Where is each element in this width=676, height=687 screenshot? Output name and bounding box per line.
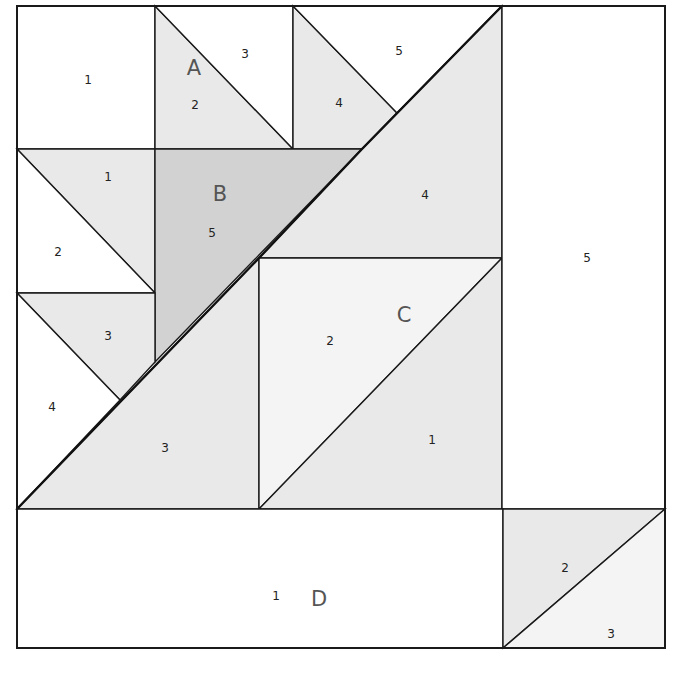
piece-number-label: 3 bbox=[104, 329, 112, 343]
piece-number-label: 2 bbox=[191, 98, 199, 112]
section-label-c: C bbox=[397, 303, 412, 327]
piece-number-label: 3 bbox=[161, 441, 169, 455]
piece-number-label: 5 bbox=[208, 226, 216, 240]
section-label-b: B bbox=[213, 182, 227, 206]
piece-number-label: 3 bbox=[607, 627, 615, 641]
piece-number-label: 2 bbox=[54, 245, 62, 259]
piece-number-label: 1 bbox=[428, 433, 436, 447]
quilt-piece-d-1 bbox=[17, 509, 503, 648]
piece-number-label: 3 bbox=[241, 47, 249, 61]
piece-number-label: 4 bbox=[48, 400, 56, 414]
piece-number-label: 5 bbox=[583, 251, 591, 265]
piece-number-label: 1 bbox=[272, 589, 280, 603]
section-label-a: A bbox=[187, 56, 202, 80]
piece-number-label: 2 bbox=[561, 561, 569, 575]
piece-number-label: 4 bbox=[335, 96, 343, 110]
piece-number-label: 2 bbox=[326, 334, 334, 348]
piece-number-label: 4 bbox=[421, 188, 429, 202]
piece-number-label: 1 bbox=[104, 170, 112, 184]
section-label-d: D bbox=[311, 587, 327, 611]
quilt-block-diagram: 123451254343215123 ABCD bbox=[0, 0, 676, 687]
piece-number-label: 1 bbox=[84, 73, 92, 87]
piece-number-label: 5 bbox=[395, 44, 403, 58]
